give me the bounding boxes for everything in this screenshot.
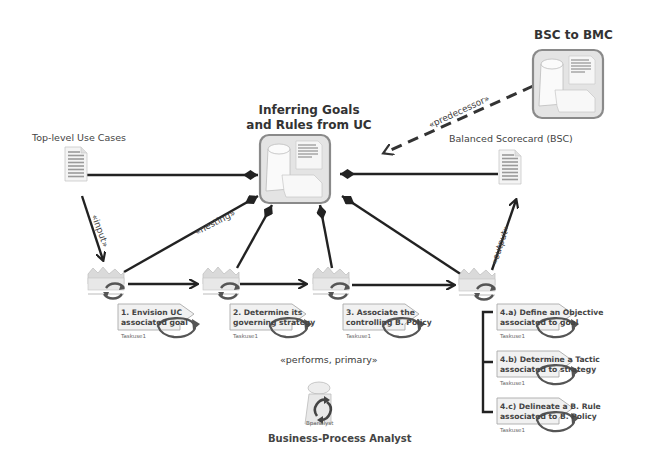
activity-icon-2[interactable] <box>203 267 240 299</box>
activity-icon-4[interactable] <box>459 268 496 300</box>
package-icon-main[interactable] <box>260 135 330 203</box>
task-label-1: 1. Envision UC associated goal <box>121 308 188 328</box>
subtask-4b-line2: associated to strategy <box>500 365 600 375</box>
subtask-4a-line2: associated to goal <box>500 318 603 328</box>
artifact-label-bsc: Balanced Scorecard (BSC) <box>449 133 573 144</box>
nesting-activity2 <box>237 205 272 268</box>
task-label-3: 3. Associate the controlling B. Policy <box>346 308 432 328</box>
role-label-analyst: Business-Process Analyst <box>268 433 412 444</box>
task-2-line2: governing strategy <box>233 318 315 328</box>
package-title-line1: Inferring Goals <box>246 103 372 118</box>
task-3-line2: controlling B. Policy <box>346 318 432 328</box>
role-icon-analyst[interactable] <box>305 382 331 424</box>
nesting-activity3 <box>320 205 332 268</box>
subtask-4c-line1: 4.c) Delineate a B. Rule <box>500 402 601 412</box>
subtask-bracket <box>483 312 493 412</box>
activity-icon-1[interactable] <box>88 267 125 299</box>
nesting-activity4 <box>342 196 462 275</box>
subtask-tag-4a: Taskuse1 <box>500 333 525 339</box>
package-icon-bsc-to-bmc[interactable] <box>533 50 603 118</box>
subtask-label-4a: 4.a) Define an Objective associated to g… <box>500 308 603 328</box>
task-label-2: 2. Determine its governing strategy <box>233 308 315 328</box>
task-2-line1: 2. Determine its <box>233 308 315 318</box>
activity-icon-3[interactable] <box>313 267 350 299</box>
package-title-line2: and Rules from UC <box>246 118 372 133</box>
subtask-4c-line2: associated to B. Policy <box>500 412 601 422</box>
subtask-label-4b: 4.b) Determine a Tactic associated to st… <box>500 355 600 375</box>
subtask-4b-line1: 4.b) Determine a Tactic <box>500 355 600 365</box>
document-icon-usecases[interactable] <box>65 147 87 181</box>
subtask-tag-4c: Taskuse1 <box>500 427 525 433</box>
subtask-tag-4b: Taskuse1 <box>500 380 525 386</box>
subtask-4a-line1: 4.a) Define an Objective <box>500 308 603 318</box>
subtask-label-4c: 4.c) Delineate a B. Rule associated to B… <box>500 402 601 422</box>
package-title-main: Inferring Goals and Rules from UC <box>246 103 372 133</box>
task-3-line1: 3. Associate the <box>346 308 432 318</box>
artifact-label-usecases: Top-level Use Cases <box>32 132 126 143</box>
nesting-activity1 <box>124 196 258 272</box>
task-tag-3: Taskuse1 <box>346 333 371 339</box>
task-1-line1: 1. Envision UC <box>121 308 188 318</box>
task-tag-1: Taskuse1 <box>121 333 146 339</box>
task-tag-2: Taskuse1 <box>233 333 258 339</box>
stereotype-performs: «performs, primary» <box>280 354 378 365</box>
role-icon-tag: Bpanalyst <box>306 420 333 426</box>
package-title-bsc-to-bmc: BSC to BMC <box>534 28 604 43</box>
task-1-line2: associated goal <box>121 318 188 328</box>
document-icon-bsc[interactable] <box>499 150 521 184</box>
